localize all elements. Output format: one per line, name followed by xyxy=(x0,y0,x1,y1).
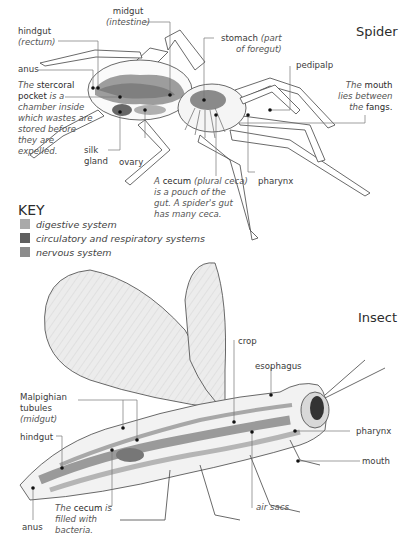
silk-gland-line: gland xyxy=(84,156,108,167)
label-insect-hindgut: hindgut xyxy=(20,432,53,443)
swatch-nervous xyxy=(20,247,30,257)
swatch-digestive xyxy=(20,219,30,229)
note-line: bacteria. xyxy=(55,525,112,536)
key-label: digestive system xyxy=(36,219,117,230)
swatch-circulatory xyxy=(20,233,30,243)
note-term: pocket xyxy=(18,91,47,101)
label-insect-air-sacs: air sacs xyxy=(256,502,289,513)
note-word: (plural ceca) xyxy=(194,176,248,186)
malpighian-subtext: (midgut) xyxy=(20,414,67,425)
label-insect-malpighian: Malpighian tubules (midgut) xyxy=(20,392,67,425)
note-term: fangs. xyxy=(366,102,392,112)
note-line: stored before xyxy=(18,124,93,135)
stomach-subtext: of foregut) xyxy=(221,44,282,55)
label-spider-pedipalp: pedipalp xyxy=(296,60,333,71)
note-line: they are xyxy=(18,135,93,146)
note-term: stercoral xyxy=(37,80,75,90)
note-line: lies between xyxy=(338,91,392,102)
malpighian-line: Malpighian xyxy=(20,392,67,403)
note-line: filled with xyxy=(55,514,112,525)
note-line: which wastes are xyxy=(18,113,93,124)
spider-title: Spider xyxy=(356,24,398,39)
key-title: KEY xyxy=(18,202,45,218)
silk-gland-line: silk xyxy=(84,145,108,156)
stomach-text: stomach xyxy=(221,33,258,43)
key-label: circulatory and respiratory systems xyxy=(36,233,205,244)
label-spider-midgut: midgut (intestine) xyxy=(106,6,150,28)
note-line: expelled. xyxy=(18,146,93,157)
note-word: A xyxy=(154,176,160,186)
hindgut-text: hindgut xyxy=(18,26,55,37)
label-spider-mouth-note: The mouth lies between the fangs. xyxy=(338,80,392,113)
label-spider-silk-gland: silk gland xyxy=(84,145,108,167)
key-item-nervous: nervous system xyxy=(20,246,112,258)
label-insect-crop: crop xyxy=(238,336,257,347)
midgut-subtext: (intestine) xyxy=(106,17,150,28)
label-insect-anus: anus xyxy=(22,522,43,533)
hindgut-subtext: (rectum) xyxy=(18,37,55,48)
label-spider-anus: anus xyxy=(18,64,39,75)
label-spider-ovary: ovary xyxy=(119,157,143,168)
note-term: cecum xyxy=(163,176,192,186)
label-stercoral-pocket: The stercoral pocket is a chamber inside… xyxy=(18,80,93,157)
label-insect-cecum-note: The cecum is filled with bacteria. xyxy=(55,503,112,536)
note-line: gut. A spider's gut xyxy=(154,198,248,209)
note-word: the xyxy=(349,102,363,112)
note-word: is xyxy=(105,503,112,513)
key-label: nervous system xyxy=(36,247,112,258)
note-term: cecum xyxy=(74,503,103,513)
label-cecum-note: A cecum (plural ceca) is a pouch of the … xyxy=(154,176,248,220)
key-item-digestive: digestive system xyxy=(20,218,117,230)
key-item-circulatory: circulatory and respiratory systems xyxy=(20,232,205,244)
label-insect-mouth: mouth xyxy=(362,456,390,467)
insect-title: Insect xyxy=(358,310,397,325)
note-word: The xyxy=(346,80,362,90)
note-word: is a xyxy=(50,91,65,101)
note-term: mouth xyxy=(365,80,393,90)
note-line: is a pouch of the xyxy=(154,187,248,198)
note-word: The xyxy=(55,503,71,513)
midgut-text: midgut xyxy=(106,6,150,17)
label-spider-stomach: stomach (part of foregut) xyxy=(221,33,282,55)
label-insect-pharynx: pharynx xyxy=(356,426,391,437)
label-insect-esophagus: esophagus xyxy=(255,361,302,372)
label-spider-pharynx: pharynx xyxy=(258,176,293,187)
insect-drawing xyxy=(20,263,385,520)
label-spider-hindgut: hindgut (rectum) xyxy=(18,26,55,48)
malpighian-line: tubules xyxy=(20,403,67,414)
note-line: has many ceca. xyxy=(154,209,248,220)
note-word: The xyxy=(18,80,34,90)
note-line: chamber inside xyxy=(18,102,93,113)
stomach-subtext: (part xyxy=(261,33,282,43)
